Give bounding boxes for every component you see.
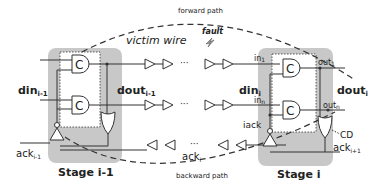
inn-label: inn	[254, 96, 265, 105]
fault-label: fault	[202, 27, 224, 36]
cd-label: CD	[340, 130, 353, 140]
svg-text:···: ···	[190, 139, 199, 149]
din-prev-label: dini-1	[18, 84, 48, 98]
ack-cur-label: acki	[182, 151, 201, 163]
stage-cur-label: Stage i	[277, 168, 321, 181]
svg-text:···: ···	[180, 58, 189, 68]
forward-path-label: forward path	[178, 7, 223, 15]
svg-text:C: C	[286, 104, 294, 118]
svg-text:···: ···	[180, 99, 189, 109]
circuit-diagram: C C ··· ··· ··· C	[0, 0, 380, 191]
c-gate-cur-n: C	[283, 101, 300, 119]
ack-prev-label: acki-1	[16, 148, 41, 160]
svg-text:C: C	[75, 99, 83, 113]
dout-prev-label: douti-1	[117, 84, 156, 98]
svg-text:C: C	[75, 58, 83, 72]
c-gate-prev-1: C	[72, 55, 89, 73]
dout-cur-label: douti	[337, 84, 368, 98]
outn-label: outn	[323, 101, 340, 110]
in1-label: in1	[254, 54, 265, 63]
ack-next-label: acki+1	[333, 142, 361, 154]
stage-prev-label: Stage i-1	[58, 166, 114, 179]
out1-label: out1	[318, 58, 335, 67]
iack-label: iack	[243, 120, 262, 130]
c-gate-prev-n: C	[72, 96, 89, 114]
svg-text:C: C	[286, 62, 294, 76]
backward-path-label: backward path	[176, 172, 228, 180]
victim-wire-label: victim wire	[126, 34, 187, 47]
fault-icon	[206, 38, 214, 47]
c-gate-cur-1: C	[283, 59, 300, 77]
